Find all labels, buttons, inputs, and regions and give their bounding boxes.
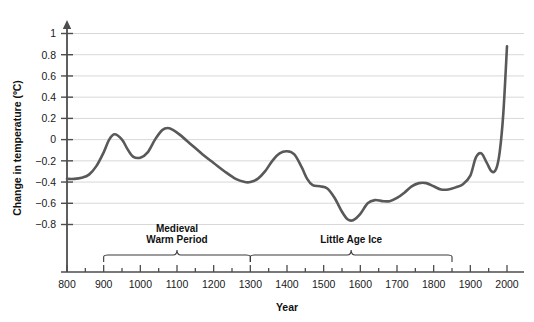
y-axis-title: Change in temperature (ºC) — [11, 80, 23, 216]
y-tick-label: 0.2 — [41, 112, 56, 124]
annotation-label-medieval-warm-period: Medieval — [156, 223, 198, 234]
y-tick-label: 0.6 — [41, 70, 56, 82]
x-tick-label: 1700 — [385, 278, 409, 290]
x-tick-label: 900 — [95, 278, 113, 290]
annotation-bracket-little-ice-age — [250, 250, 452, 262]
annotation-label-medieval-warm-period: Warm Period — [146, 234, 207, 245]
x-tick-label: 1900 — [459, 278, 483, 290]
y-tick-label: 0.8 — [41, 49, 56, 61]
series-line — [67, 46, 507, 220]
x-tick-label: 1300 — [239, 278, 263, 290]
x-tick-label: 2000 — [495, 278, 519, 290]
x-tick-label: 800 — [58, 278, 76, 290]
x-tick-label: 1400 — [275, 278, 299, 290]
annotations: MedievalWarm PeriodLittle Age Ice — [104, 223, 452, 262]
x-tick-label: 1200 — [202, 278, 226, 290]
y-tick-label: −0.8 — [35, 218, 56, 230]
x-tick-label: 1800 — [422, 278, 446, 290]
chart-canvas: 10.80.60.40.20−0.2−0.4−0.6−0.8 800900100… — [0, 0, 534, 322]
x-tick-label: 1500 — [312, 278, 336, 290]
x-axis-title: Year — [276, 301, 298, 313]
y-tick-label: 1 — [50, 27, 56, 39]
x-tick-label: 1100 — [166, 278, 189, 290]
annotation-bracket-medieval-warm-period — [104, 250, 251, 262]
x-tick-label: 1000 — [129, 278, 153, 290]
y-tick-label: −0.6 — [35, 197, 56, 209]
axes — [61, 20, 524, 272]
x-axis-ticks: 8009001000110012001300140015001600170018… — [58, 265, 519, 290]
data-series — [67, 46, 507, 220]
gridlines — [65, 34, 524, 225]
y-tick-label: −0.4 — [35, 176, 56, 188]
y-axis-arrow-icon — [63, 20, 71, 29]
y-tick-label: 0.4 — [41, 91, 56, 103]
y-tick-label: 0 — [50, 133, 56, 145]
y-tick-label: −0.2 — [35, 155, 56, 167]
temperature-chart: 10.80.60.40.20−0.2−0.4−0.6−0.8 800900100… — [0, 0, 534, 322]
x-tick-label: 1600 — [349, 278, 373, 290]
annotation-label-little-ice-age: Little Age Ice — [320, 234, 382, 245]
